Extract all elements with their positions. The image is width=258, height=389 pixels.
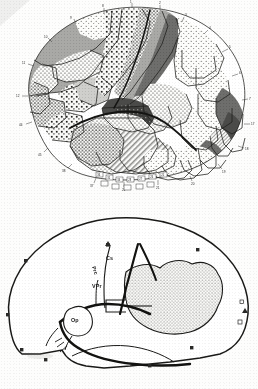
scan-artifact	[27, 353, 53, 359]
number-label: 19	[222, 170, 226, 174]
number-label: 12	[16, 94, 20, 98]
number-label: 38	[62, 169, 66, 173]
number-label: 8	[102, 4, 104, 8]
number-label: 18	[245, 147, 249, 151]
figure-lower-schematic-outline: Prc Cs VPr Op	[0, 196, 258, 389]
number-label: 21	[156, 186, 160, 190]
number-label: 4	[209, 26, 211, 30]
number-label: 1	[130, 0, 132, 4]
number-label: 45	[38, 153, 42, 157]
number-label: 2	[159, 1, 161, 5]
label-operculum: Op	[71, 317, 79, 323]
number-label: 44	[19, 123, 23, 127]
number-label: 20	[191, 182, 195, 186]
label-central-sulcus: Cs	[106, 255, 113, 261]
number-label: 9	[70, 16, 72, 20]
number-label: 5	[229, 45, 231, 49]
number-label: 11	[22, 61, 25, 65]
number-label: 10	[44, 35, 48, 39]
number-label: 17	[251, 122, 255, 126]
figure-upper-cytoarchitectonic-map: 1 8 9 10 11 12 44 45 2 3 4 5 6 7 17 18 1…	[0, 0, 258, 196]
brain-regions-group	[0, 0, 258, 196]
number-label: 3	[185, 13, 187, 17]
number-label: 37	[90, 184, 94, 188]
scan-artifact	[0, 0, 30, 26]
number-label: 7	[249, 97, 251, 101]
label-ventral-precentral: VPr	[92, 283, 102, 289]
anatomical-plate: 1 8 9 10 11 12 44 45 2 3 4 5 6 7 17 18 1…	[0, 0, 258, 389]
number-label: 6	[239, 71, 241, 75]
